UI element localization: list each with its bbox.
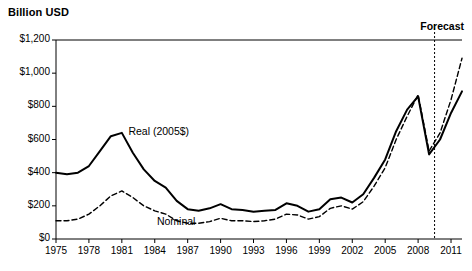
y-tick-label: $400: [6, 166, 50, 177]
x-tick-label: 2008: [401, 245, 435, 256]
nominal-series-label: Nominal: [157, 215, 196, 227]
x-tick-label: 1990: [204, 245, 238, 256]
x-tick-label: 1978: [72, 245, 106, 256]
x-tick-label: 1999: [302, 245, 336, 256]
y-tick-label: $0: [6, 232, 50, 243]
y-tick-label: $200: [6, 199, 50, 210]
x-tick-label: 2002: [335, 245, 369, 256]
y-tick-label: $800: [6, 99, 50, 110]
x-tick-label: 1996: [269, 245, 303, 256]
series-line-nominal: [56, 58, 462, 223]
x-tick-label: 2005: [368, 245, 402, 256]
x-tick-label: 1993: [237, 245, 271, 256]
y-tick-label: $1,200: [6, 33, 50, 44]
plot-area: [0, 0, 472, 271]
y-tick-label: $600: [6, 133, 50, 144]
x-tick-label: 1981: [105, 245, 139, 256]
x-tick-label: 1987: [171, 245, 205, 256]
x-tick-label: 2011: [434, 245, 468, 256]
x-tick-label: 1975: [39, 245, 73, 256]
x-tick-label: 1984: [138, 245, 172, 256]
real-series-label: Real (2005$): [128, 125, 189, 137]
y-tick-label: $1,000: [6, 66, 50, 77]
chart-container: Billion USD Forecast $0$200$400$600$800$…: [0, 0, 472, 271]
